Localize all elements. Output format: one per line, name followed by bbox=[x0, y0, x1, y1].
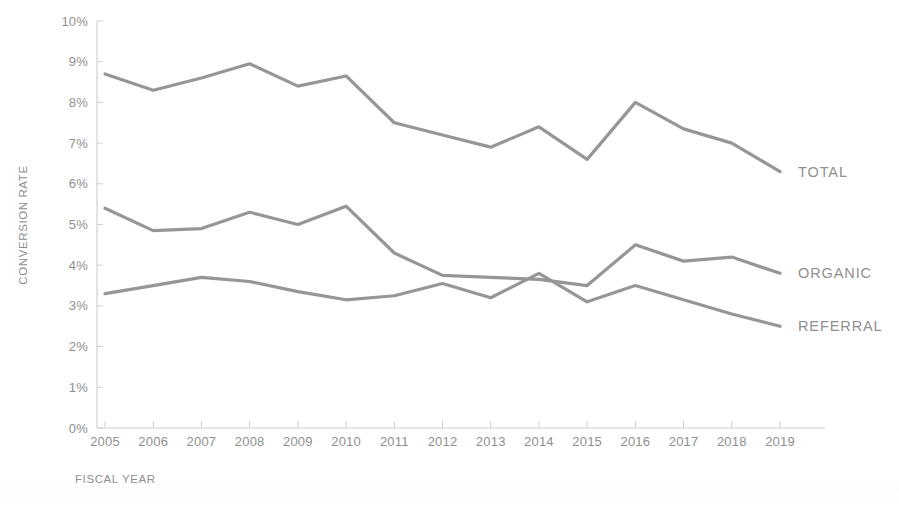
x-axis-title-label: FISCAL YEAR bbox=[75, 473, 156, 485]
series-lines-group bbox=[105, 64, 780, 327]
y-axis-tick-label: 0% bbox=[69, 421, 88, 436]
series-line-referral bbox=[105, 273, 780, 326]
x-axis-tick-label: 2008 bbox=[235, 434, 265, 449]
x-axis-tick-label: 2011 bbox=[380, 434, 409, 449]
y-axis-tick-label: 7% bbox=[69, 136, 88, 151]
y-axis-tick-label: 10% bbox=[61, 14, 88, 29]
y-axis-title-label: CONVERSION RATE bbox=[17, 165, 29, 284]
x-axis-tick-label: 2012 bbox=[428, 434, 458, 449]
series-label-referral: REFERRAL bbox=[798, 318, 883, 334]
x-axis-tick-label: 2013 bbox=[476, 434, 506, 449]
x-axis-tickmarks bbox=[105, 421, 780, 428]
y-axis-tick-label: 3% bbox=[69, 298, 88, 313]
conversion-rate-line-chart: CONVERSION RATE 0%1%2%3%4%5%6%7%8%9%10% … bbox=[0, 0, 899, 509]
series-line-total bbox=[105, 64, 780, 172]
x-axis-tick-labels: 2005200620072008200920102011201220132014… bbox=[90, 434, 795, 449]
y-axis-tick-label: 4% bbox=[69, 258, 88, 273]
x-axis-tick-label: 2017 bbox=[669, 434, 699, 449]
y-axis-tickmarks bbox=[97, 21, 103, 428]
series-line-organic bbox=[105, 206, 780, 285]
x-axis-tick-label: 2009 bbox=[283, 434, 313, 449]
series-labels-group: TOTALORGANICREFERRAL bbox=[798, 164, 883, 335]
y-axis-tick-label: 1% bbox=[69, 380, 88, 395]
y-axis-tick-label: 6% bbox=[69, 176, 88, 191]
x-axis-tick-label: 2006 bbox=[138, 434, 168, 449]
y-axis-tick-labels: 0%1%2%3%4%5%6%7%8%9%10% bbox=[61, 14, 88, 436]
x-axis-tick-label: 2019 bbox=[765, 434, 795, 449]
x-axis-tick-label: 2018 bbox=[717, 434, 747, 449]
x-axis-tick-label: 2015 bbox=[572, 434, 602, 449]
series-label-total: TOTAL bbox=[798, 164, 848, 180]
chart-canvas: CONVERSION RATE 0%1%2%3%4%5%6%7%8%9%10% … bbox=[0, 0, 899, 509]
x-axis-tick-label: 2005 bbox=[90, 434, 120, 449]
x-axis-tick-label: 2014 bbox=[524, 434, 554, 449]
x-axis-tick-label: 2010 bbox=[331, 434, 361, 449]
y-axis-title: CONVERSION RATE bbox=[17, 165, 29, 284]
y-axis-tick-label: 9% bbox=[69, 54, 88, 69]
x-axis-tick-label: 2007 bbox=[187, 434, 217, 449]
y-axis-tick-label: 5% bbox=[69, 217, 88, 232]
y-axis-tick-label: 2% bbox=[69, 339, 88, 354]
y-axis-tick-label: 8% bbox=[69, 95, 88, 110]
series-label-organic: ORGANIC bbox=[798, 265, 872, 281]
x-axis-tick-label: 2016 bbox=[620, 434, 650, 449]
